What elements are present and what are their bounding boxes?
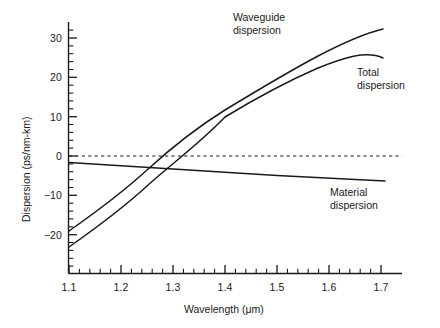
- y-major-ticks: [69, 38, 78, 235]
- x-tick-label-1-2: 1.2: [105, 281, 137, 293]
- x-major-ticks: [69, 265, 381, 274]
- x-tick-label-1-5: 1.5: [261, 281, 293, 293]
- dispersion-chart: 30 20 10 0 −10 −20 1.1 1.2 1.3 1.4 1.5 1…: [0, 0, 440, 328]
- x-tick-label-1-3: 1.3: [157, 281, 189, 293]
- series-label-total-line1: Total: [357, 66, 405, 79]
- y-tick-label-minus-20: −20: [26, 229, 62, 241]
- series-label-waveguide-line2: dispersion: [233, 24, 285, 37]
- y-tick-label-10: 10: [30, 111, 62, 123]
- series-label-material-line1: Material: [330, 186, 378, 199]
- x-tick-label-1-4: 1.4: [209, 281, 241, 293]
- x-tick-label-1-6: 1.6: [313, 281, 345, 293]
- y-tick-label-30: 30: [30, 32, 62, 44]
- series-label-waveguide-dispersion: Waveguide dispersion: [233, 11, 285, 36]
- x-tick-label-1-7: 1.7: [365, 281, 397, 293]
- series-label-waveguide-line1: Waveguide: [233, 11, 285, 24]
- chart-plot-area: [0, 0, 440, 328]
- axis-lines: [69, 22, 403, 274]
- series-line-total-dispersion: [69, 55, 383, 247]
- series-label-total-line2: dispersion: [357, 79, 405, 92]
- series-label-material-line2: dispersion: [330, 199, 378, 212]
- series-line-material-dispersion: [69, 163, 385, 182]
- y-tick-label-0: 0: [30, 150, 62, 162]
- series-label-material-dispersion: Material dispersion: [330, 186, 378, 211]
- x-axis-title: Wavelength (μm): [184, 303, 264, 315]
- x-tick-label-1-1: 1.1: [53, 281, 85, 293]
- y-tick-label-20: 20: [30, 71, 62, 83]
- y-axis-title: Dispersion (ps/nm-km): [20, 116, 32, 222]
- series-label-total-dispersion: Total dispersion: [357, 66, 405, 91]
